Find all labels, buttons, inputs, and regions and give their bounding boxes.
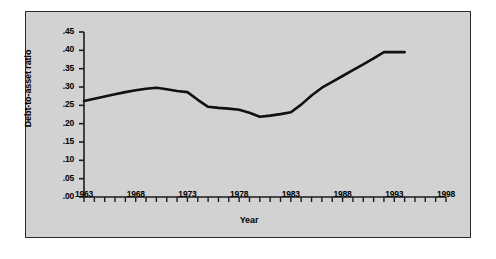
x-tick-label: 1988: [323, 189, 363, 199]
x-tick-label: 1993: [374, 189, 414, 199]
y-tick-label: .35: [48, 63, 74, 73]
y-tick-label: .30: [48, 81, 74, 91]
y-tick-label: .20: [48, 118, 74, 128]
y-tick-label: .40: [48, 44, 74, 54]
x-tick-label: 1973: [167, 189, 207, 199]
x-tick-label: 1998: [426, 189, 466, 199]
y-tick-label: .05: [48, 173, 74, 183]
y-tick-label: .45: [48, 26, 74, 36]
data-line: [84, 52, 405, 117]
y-tick-label: .10: [48, 154, 74, 164]
chart-svg: [26, 12, 472, 239]
x-tick-label: 1963: [64, 189, 104, 199]
y-tick-label: .25: [48, 99, 74, 109]
x-tick-label: 1978: [219, 189, 259, 199]
x-tick-label: 1983: [271, 189, 311, 199]
y-tick-label: .15: [48, 136, 74, 146]
chart-figure: Debt-to-asset ratio Year .00.05.10.15.20…: [25, 11, 471, 238]
x-tick-label: 1968: [116, 189, 156, 199]
plot-area: .00.05.10.15.20.25.30.35.40.451963196819…: [26, 12, 472, 239]
